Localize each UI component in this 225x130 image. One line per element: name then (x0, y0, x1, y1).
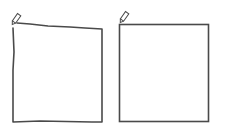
rectangle-square[interactable] (120, 25, 209, 122)
hand-drawn-square[interactable] (13, 23, 102, 122)
drawing-canvas[interactable] (0, 0, 225, 130)
pencil-icon[interactable] (119, 11, 129, 23)
